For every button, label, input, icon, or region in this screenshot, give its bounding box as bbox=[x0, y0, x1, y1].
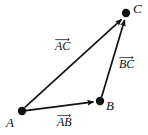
vector-label-bc: BC bbox=[119, 55, 134, 70]
point-dot-a bbox=[18, 107, 26, 115]
point-dot-b bbox=[96, 97, 104, 105]
vector-label-ac: AC bbox=[55, 37, 70, 52]
vector-arrow-overbar-icon bbox=[55, 37, 70, 42]
vector-label-ab: AB bbox=[57, 113, 71, 128]
vector-line-ab bbox=[26, 102, 94, 111]
point-label-a: A bbox=[6, 116, 14, 129]
vector-line-ac bbox=[25, 19, 122, 107]
vector-arrow-overbar-icon bbox=[57, 113, 71, 118]
point-dot-c bbox=[122, 9, 130, 17]
point-label-c: C bbox=[133, 2, 142, 15]
point-label-b: B bbox=[106, 99, 114, 112]
vector-arrow-overbar-icon bbox=[119, 55, 134, 60]
vector-triangle-figure: A B C AC BC AB bbox=[0, 0, 148, 135]
